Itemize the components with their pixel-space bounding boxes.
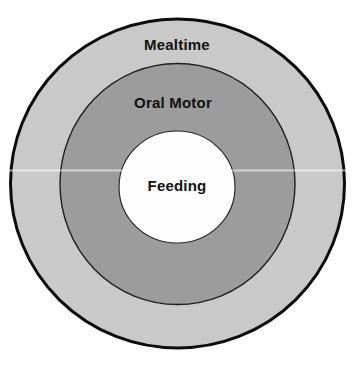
feeding-label: Feeding [148, 177, 207, 194]
mealtime-label: Mealtime [144, 36, 210, 53]
diagram-canvas: Mealtime Oral Motor Feeding [0, 0, 352, 368]
oral-motor-label: Oral Motor [134, 94, 212, 111]
concentric-circles-diagram: Mealtime Oral Motor Feeding [0, 0, 352, 368]
scan-artifact-line [0, 170, 352, 172]
